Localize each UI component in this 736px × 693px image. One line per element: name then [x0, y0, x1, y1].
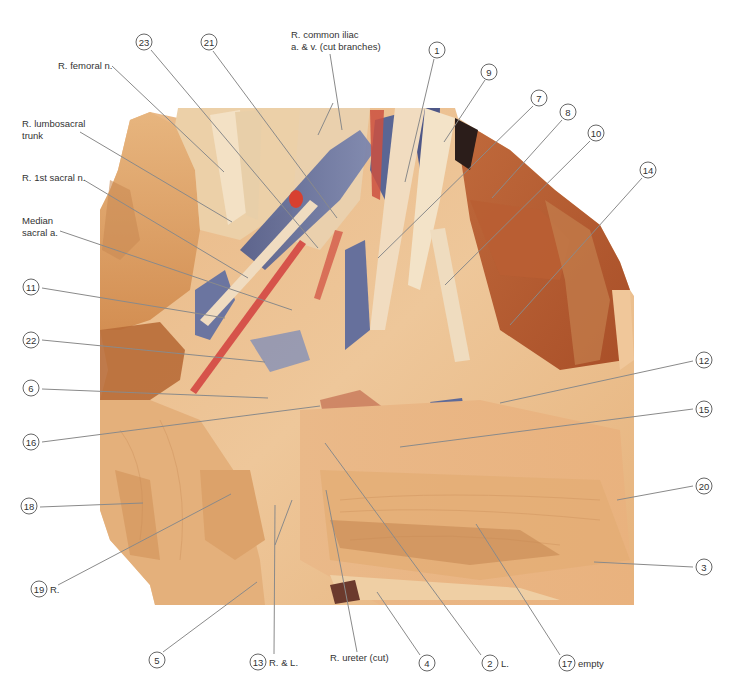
- leader-line-13a: [274, 505, 275, 654]
- leader-line-r-lumbosacral: [80, 132, 232, 222]
- label-r-1st-sacral: R. 1st sacral n.: [22, 172, 85, 183]
- callout-number: 17: [562, 658, 573, 669]
- callout-number: 2: [487, 658, 492, 669]
- callout-17: 17empty: [559, 655, 604, 671]
- callout-15: 15: [696, 401, 712, 417]
- leader-line-17: [476, 524, 560, 655]
- leader-line-19: [58, 494, 231, 585]
- callout-5: 5: [149, 652, 165, 668]
- callout-11: 11: [23, 279, 39, 295]
- callout-22: 22: [23, 332, 39, 348]
- callout-number: 21: [204, 37, 215, 48]
- callout-number: 8: [565, 107, 570, 118]
- label-r-common-iliac-1: R. common iliac: [291, 29, 359, 40]
- callout-number: 22: [26, 335, 37, 346]
- callout-number: 14: [643, 165, 654, 176]
- callout-number: 7: [536, 93, 541, 104]
- callout-suffix: R.: [50, 584, 60, 595]
- leader-line-2: [325, 443, 481, 655]
- leader-line-4: [377, 592, 420, 655]
- callout-suffix: L.: [501, 658, 509, 669]
- callout-21: 21: [201, 34, 217, 50]
- leader-line-16: [42, 406, 320, 442]
- callout-number: 10: [591, 128, 602, 139]
- label-r-femoral-n: R. femoral n.: [58, 60, 112, 71]
- callout-23: 23: [136, 34, 152, 50]
- leader-line-11: [42, 288, 225, 318]
- leader-line-12: [500, 361, 693, 403]
- callout-number: 12: [699, 355, 710, 366]
- label-r-lumbosacral-1: R. lumbosacral: [22, 118, 85, 129]
- callout-number: 3: [701, 562, 706, 573]
- callout-13: 13R. & L.: [250, 654, 298, 670]
- leader-line-r-common-iliac-b: [318, 103, 333, 135]
- callout-number: 6: [28, 383, 33, 394]
- callout-1: 1: [429, 42, 445, 58]
- callout-number: 23: [139, 37, 150, 48]
- label-median-sacral-1: Median: [22, 215, 53, 226]
- leader-line-5: [163, 582, 257, 652]
- callout-number: 1: [434, 45, 439, 56]
- callout-number: 13: [253, 657, 264, 668]
- leader-line-1: [405, 59, 434, 182]
- callout-number: 9: [486, 67, 491, 78]
- callout-4: 4: [419, 655, 435, 671]
- callout-6: 6: [23, 380, 39, 396]
- leader-line-20: [617, 486, 693, 500]
- callout-number: 18: [24, 501, 35, 512]
- leader-line-10: [445, 141, 590, 285]
- label-median-sacral-2: sacral a.: [22, 227, 58, 238]
- annotation-layer: R. femoral n.R. common iliaca. & v. (cut…: [0, 0, 736, 693]
- callout-number: 11: [26, 282, 36, 293]
- leader-line-18: [40, 503, 143, 507]
- callout-14: 14: [640, 162, 656, 178]
- callout-7: 7: [531, 90, 547, 106]
- callout-number: 15: [699, 404, 710, 415]
- callout-suffix: R. & L.: [269, 657, 298, 668]
- leader-line-8: [492, 120, 562, 198]
- callout-19: 19R.: [31, 581, 60, 597]
- leader-line-6: [42, 389, 268, 398]
- callout-18: 18: [21, 498, 37, 514]
- callout-16: 16: [23, 434, 39, 450]
- leader-line-r-femoral-n: [112, 66, 224, 172]
- callout-number: 19: [34, 584, 45, 595]
- leader-line-9: [444, 80, 485, 142]
- callout-10: 10: [588, 125, 604, 141]
- callout-number: 4: [424, 658, 429, 669]
- callout-number: 16: [26, 437, 37, 448]
- callout-number: 20: [699, 481, 710, 492]
- leader-line-r-ureter: [326, 490, 357, 652]
- leader-line-r-1st-sacral: [84, 180, 248, 278]
- callout-suffix: empty: [578, 658, 604, 669]
- callout-3: 3: [696, 559, 712, 575]
- leader-line-3: [594, 562, 693, 567]
- leader-line-22: [42, 340, 265, 362]
- leader-line-r-common-iliac-a: [330, 54, 342, 130]
- label-r-common-iliac-2: a. & v. (cut branches): [291, 41, 381, 52]
- label-r-lumbosacral-2: trunk: [22, 130, 43, 141]
- label-r-ureter: R. ureter (cut): [330, 652, 389, 663]
- callout-number: 5: [154, 655, 159, 666]
- leader-line-median-sacral: [60, 231, 292, 310]
- callout-9: 9: [481, 64, 497, 80]
- leader-line-15: [400, 409, 693, 447]
- callout-8: 8: [560, 104, 576, 120]
- leader-line-13b: [275, 500, 292, 545]
- leader-line-14: [510, 178, 642, 325]
- callout-2: 2L.: [482, 655, 509, 671]
- anatomy-figure: R. femoral n.R. common iliaca. & v. (cut…: [0, 0, 736, 693]
- callout-12: 12: [696, 352, 712, 368]
- leader-line-7: [378, 106, 533, 258]
- callout-20: 20: [696, 478, 712, 494]
